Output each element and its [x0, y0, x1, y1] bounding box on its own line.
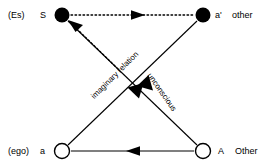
schema-l-diagram: (Es) S a' other (ego) a A Other imaginar…	[0, 0, 270, 168]
node-label-capital-a: A	[218, 147, 224, 156]
node-label-ego: (ego)	[8, 147, 29, 156]
diagram-canvas	[0, 0, 270, 168]
node-S	[55, 8, 70, 23]
node-a	[55, 144, 70, 159]
node-label-a-prime: a'	[215, 11, 222, 20]
edge-A-to-a-arrowhead	[126, 146, 140, 156]
edge-S-to-aprime-arrowhead	[131, 10, 145, 20]
edge-broken-to-S-arrowhead	[68, 20, 83, 32]
node-label-a: a	[40, 147, 45, 156]
node-A	[196, 144, 211, 159]
node-label-other-lowercase: other	[232, 11, 253, 20]
node-label-s: S	[40, 11, 46, 20]
node-label-es: (Es)	[8, 11, 25, 20]
node-label-other-uppercase: Other	[235, 147, 258, 156]
node-a-prime	[196, 8, 211, 23]
